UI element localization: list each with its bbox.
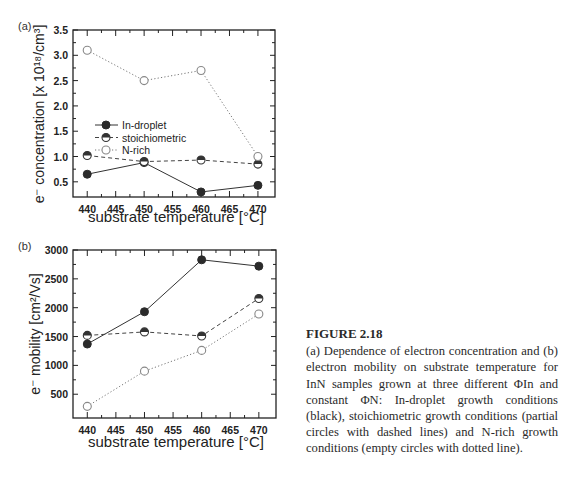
series-line-stoichiometric [87, 156, 258, 165]
series-line-in-droplet [87, 163, 258, 192]
open-circle-marker [102, 146, 110, 154]
series-line-in-droplet [87, 260, 259, 344]
panel-b-y-ticks: 50010001500200025003000 [45, 244, 276, 400]
filled-circle-marker [198, 256, 206, 264]
filled-circle-marker [140, 308, 148, 316]
panel-a-tag: (a) [18, 20, 31, 32]
y-tick-label: 2500 [45, 273, 69, 285]
panel-a-y-axis-label: e⁻ concentration [x 10¹⁸/cm³] [31, 25, 47, 204]
y-tick-label: 1.0 [53, 151, 68, 163]
y-tick-label: 3.5 [53, 24, 68, 36]
legend-label: In-droplet [122, 119, 166, 131]
figure-caption-text: (a) Dependence of electron concentration… [306, 344, 558, 455]
panel-a-x-axis-label: substrate temperature [°C] [88, 208, 264, 225]
open-circle-marker [83, 46, 91, 54]
y-tick-label: 2000 [45, 302, 69, 314]
filled-circle-marker [83, 340, 91, 348]
y-tick-label: 500 [50, 388, 68, 400]
open-circle-marker [255, 310, 263, 318]
y-tick-label: 2.0 [53, 100, 68, 112]
panel-b-series [83, 256, 263, 411]
y-tick-label: 2.5 [53, 75, 68, 87]
figure-number: FIGURE 2.18 [306, 326, 558, 342]
y-tick-label: 1000 [45, 359, 69, 371]
panel-a-frame [73, 30, 275, 197]
series-line-stoichiometric [87, 298, 259, 336]
panel-b-x-axis-label: substrate temperature [°C] [88, 433, 264, 450]
filled-circle-marker [102, 121, 110, 129]
open-circle-marker [254, 153, 262, 161]
panel-a-series [83, 46, 262, 196]
open-circle-marker [140, 367, 148, 375]
y-tick-label: 3.0 [53, 49, 68, 61]
panel-a-concentration-chart: (a) 0.51.01.52.02.53.03.5 44044545045546… [18, 20, 275, 225]
figure-caption: FIGURE 2.18 (a) Dependence of electron c… [306, 326, 558, 457]
y-tick-label: 0.5 [53, 176, 68, 188]
filled-circle-marker [83, 170, 91, 178]
y-tick-label: 3000 [45, 244, 69, 256]
y-tick-label: 1500 [45, 331, 69, 343]
panel-a-legend: In-dropletstoichiometricN-rich [95, 119, 186, 156]
filled-circle-marker [197, 188, 205, 196]
panel-b-x-ticks: 440445450455460465470 [79, 250, 268, 436]
open-circle-marker [198, 346, 206, 354]
panel-b-mobility-chart: (b) 50010001500200025003000 440445450455… [18, 240, 276, 450]
legend-label: stoichiometric [122, 132, 186, 144]
y-tick-label: 1.5 [53, 125, 68, 137]
filled-circle-marker [254, 181, 262, 189]
series-line-n-rich [87, 314, 259, 406]
legend-label: N-rich [122, 144, 150, 156]
open-circle-marker [197, 66, 205, 74]
filled-circle-marker [255, 262, 263, 270]
panel-b-y-axis-label: e⁻ mobility [cm²/Vs] [27, 273, 43, 394]
open-circle-marker [83, 402, 91, 410]
panel-b-tag: (b) [18, 240, 31, 252]
open-circle-marker [140, 77, 148, 85]
